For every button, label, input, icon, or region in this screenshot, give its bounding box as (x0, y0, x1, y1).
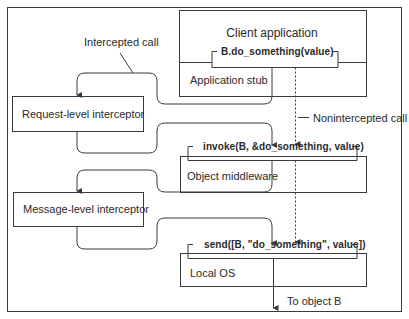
object-middleware-label: Object middleware (187, 170, 278, 182)
os-call-label: send([B, "do_something", value]) (204, 239, 366, 251)
message-interceptor-label: Message-level interceptor (23, 203, 149, 215)
nonintercepted-call-label: Nonintercepted call (313, 112, 407, 124)
application-stub-label: Application stub (190, 74, 268, 86)
to-object-b-label: To object B (287, 295, 341, 307)
local-os-label: Local OS (190, 267, 235, 279)
intercepted-call-label: Intercepted call (84, 36, 159, 48)
app-call-label: B.do_something(value) (221, 46, 334, 58)
middleware-call-label: invoke(B, &do_something, value) (203, 141, 364, 153)
outer-frame (8, 8, 402, 312)
request-interceptor-label: Request-level interceptor (22, 108, 144, 120)
client-application-label: Client application (226, 27, 317, 39)
